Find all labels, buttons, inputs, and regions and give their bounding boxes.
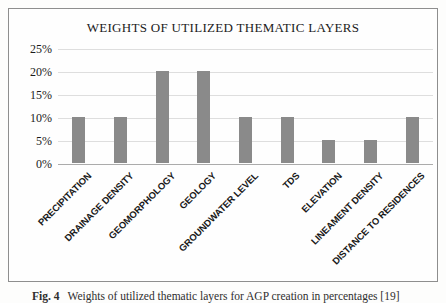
bar <box>197 71 210 163</box>
y-tick-label: 5% <box>12 134 52 148</box>
plot-area: 0%5%10%15%20%25%PRECIPITATIONDRAINAGE DE… <box>58 49 433 164</box>
bar <box>281 117 294 163</box>
x-axis-label: TDS <box>281 170 302 191</box>
x-axis-line <box>58 164 433 165</box>
figure-frame: WEIGHTS OF UTILIZED THEMATIC LAYERS 0%5%… <box>8 8 438 282</box>
bar <box>406 117 419 163</box>
x-axis-label: GEOLOGY <box>177 170 218 211</box>
y-tick-label: 20% <box>12 65 52 79</box>
x-axis-label: GROUNDWATER LEVEL <box>177 170 261 254</box>
bar <box>364 140 377 163</box>
caption-label: Fig. 4 <box>32 290 59 302</box>
x-axis-label: LINEAMENT DENSITY <box>309 170 386 247</box>
gridline <box>58 49 433 50</box>
y-tick-label: 0% <box>12 157 52 171</box>
y-tick-label: 10% <box>12 111 52 125</box>
gridline <box>58 95 433 96</box>
y-tick-label: 25% <box>12 42 52 56</box>
bar <box>156 71 169 163</box>
y-tick-label: 15% <box>12 88 52 102</box>
bar <box>322 140 335 163</box>
gridline <box>58 72 433 73</box>
x-axis-label: ELEVATION <box>299 170 344 215</box>
bar <box>114 117 127 163</box>
chart-title: WEIGHTS OF UTILIZED THEMATIC LAYERS <box>9 20 437 36</box>
caption-text: Weights of utilized thematic layers for … <box>67 290 399 302</box>
figure-caption: Fig. 4Weights of utilized thematic layer… <box>32 290 442 302</box>
bar <box>239 117 252 163</box>
bar <box>72 117 85 163</box>
page: { "figure": { "caption_label": "Fig. 4",… <box>0 0 446 303</box>
